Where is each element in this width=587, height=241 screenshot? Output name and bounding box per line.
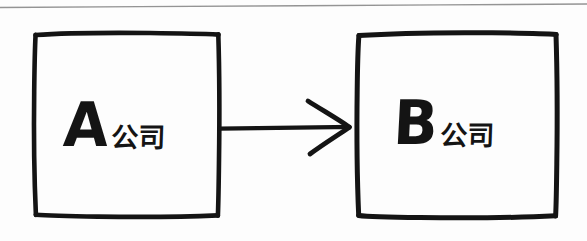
node-a-label: A 公司: [62, 98, 165, 156]
edge-a-to-b-arrow[interactable]: [220, 101, 350, 154]
diagram-canvas: A 公司 B 公司: [0, 0, 587, 241]
node-b-label: B 公司: [392, 96, 494, 154]
node-b-edge-top: [359, 33, 556, 36]
node-b-edge-right: [556, 35, 558, 217]
node-a-edge-bottom: [36, 215, 218, 217]
page-edge-rule: [0, 4, 587, 8]
node-b-edge-left: [357, 35, 359, 215]
node-a-edge-top: [36, 33, 219, 35]
node-b-edge-bottom: [359, 215, 556, 217]
arrow-head-upper: [308, 101, 349, 127]
node-a-edge-right: [218, 34, 219, 215]
node-a-suffix: 公司: [111, 124, 166, 151]
node-a-letter: A: [62, 95, 109, 156]
node-b-letter: B: [392, 93, 438, 154]
arrow-head-lower: [310, 127, 349, 154]
node-a-edge-left: [34, 35, 36, 215]
arrow-shaft: [220, 127, 349, 129]
node-b-suffix: 公司: [440, 122, 495, 149]
